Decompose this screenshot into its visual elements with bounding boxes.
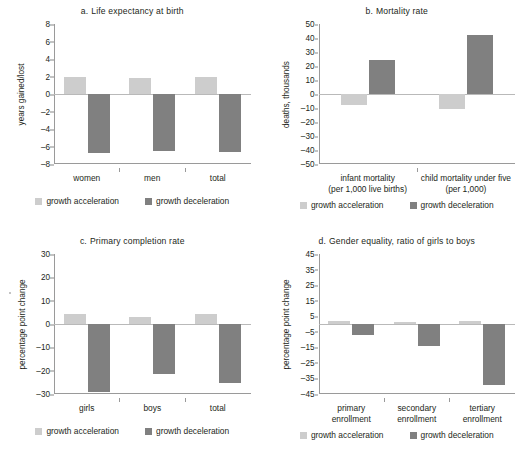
y-tick-label: –20 [36, 366, 50, 375]
y-tick-mark [315, 164, 319, 165]
y-tick-label: 20 [305, 62, 314, 71]
legend-swatch-acceleration-icon [35, 428, 42, 435]
y-tick-mark [50, 77, 54, 78]
bar-growth-acceleration [341, 94, 367, 105]
x-category-label-line: (per 1,000 live births) [328, 184, 407, 195]
y-tick-mark [50, 42, 54, 43]
bar-group [185, 254, 250, 394]
y-axis-ticks: 50403020100–10–20–30–40–50 [293, 24, 319, 164]
y-tick-mark [315, 394, 319, 395]
x-category-label: girls [79, 403, 94, 414]
bar-growth-deceleration [219, 324, 241, 383]
y-tick-mark [315, 150, 319, 151]
y-tick-label: –10 [36, 343, 50, 352]
bar-growth-deceleration [369, 60, 395, 94]
legend-label: growth acceleration [311, 430, 384, 440]
panel-d: d.Gender equality, ratio of girls to boy… [265, 230, 529, 460]
y-tick-label: –45 [301, 390, 315, 399]
y-tick-mark [315, 108, 319, 109]
y-axis-label: deaths, thousands [281, 24, 293, 164]
x-tick-mark [119, 168, 120, 172]
x-category-label-line: infant mortality [328, 173, 407, 184]
bars-layer [54, 24, 251, 164]
legend-swatch-acceleration-icon [35, 198, 42, 205]
legend-swatch-acceleration-icon [300, 202, 307, 209]
bar-growth-acceleration [64, 77, 86, 95]
x-category-label: secondaryenrollment [397, 403, 436, 425]
y-axis-label: years gained/lost [16, 24, 28, 164]
y-tick-label: 0 [45, 90, 50, 99]
y-axis-ticks: 86420–2–4–6–8 [28, 24, 54, 164]
y-tick-label: –50 [301, 160, 315, 169]
bar-group [119, 254, 184, 394]
y-tick-label: –4 [41, 125, 50, 134]
bar-group [319, 254, 384, 394]
scan-speck [9, 292, 11, 294]
y-tick-mark [50, 94, 54, 95]
x-category-label: total [210, 173, 226, 184]
bar-growth-acceleration [394, 322, 416, 324]
panel-c-legend: growth accelerationgrowth deceleration [0, 426, 265, 436]
bar-growth-acceleration [64, 314, 86, 324]
x-tick-mark [185, 168, 186, 172]
legend-label: growth deceleration [421, 200, 494, 210]
panel-letter: b. [365, 6, 373, 16]
y-axis-label: percentage point change [281, 254, 293, 394]
legend-label: growth acceleration [311, 200, 384, 210]
y-tick-mark [315, 66, 319, 67]
panel-a-title: a.Life expectancy at birth [0, 6, 265, 16]
y-tick-mark [315, 254, 319, 255]
bar-group [319, 24, 417, 164]
x-category-label-line: enrollment [397, 414, 436, 425]
y-tick-label: 5 [310, 312, 315, 321]
x-category-label-line: child mortality under five [421, 173, 511, 184]
legend-item-growth-acceleration: growth acceleration [35, 196, 119, 206]
plot-area [319, 24, 516, 164]
y-tick-label: –30 [301, 132, 315, 141]
x-category-label: child mortality under five(per 1,000) [421, 173, 511, 195]
four-panel-bar-chart-figure: a.Life expectancy at birthyears gained/l… [0, 0, 529, 460]
y-tick-mark [315, 80, 319, 81]
legend-swatch-deceleration-icon [145, 198, 152, 205]
bar-growth-acceleration [459, 321, 481, 324]
x-category-label: men [144, 173, 160, 184]
y-axis-ticks: 453525155–5–15–25–35–45 [293, 254, 319, 394]
y-tick-label: 50 [305, 20, 314, 29]
x-category-label-line: secondary [397, 403, 436, 414]
y-tick-mark [50, 347, 54, 348]
y-tick-label: –15 [301, 343, 315, 352]
y-tick-label: 2 [45, 72, 50, 81]
bar-growth-deceleration [88, 324, 110, 392]
y-tick-mark [315, 270, 319, 271]
y-tick-mark [50, 301, 54, 302]
legend-item-growth-acceleration: growth acceleration [300, 200, 384, 210]
y-tick-mark [315, 378, 319, 379]
panel-b: b.Mortality ratedeaths, thousands5040302… [265, 0, 529, 230]
y-tick-mark [50, 371, 54, 372]
x-tick-mark [449, 398, 450, 402]
y-tick-mark [50, 254, 54, 255]
y-axis-ticks: 3020100–10–20–30 [28, 254, 54, 394]
panel-c-plot: percentage point change3020100–10–20–30 [16, 254, 253, 394]
y-tick-mark [50, 59, 54, 60]
x-category-label: women [73, 173, 100, 184]
legend-label: growth acceleration [46, 426, 119, 436]
bars-layer [54, 254, 251, 394]
legend-item-growth-deceleration: growth deceleration [410, 200, 494, 210]
panel-title-text: Primary completion rate [90, 236, 185, 246]
y-tick-label: –25 [301, 358, 315, 367]
y-tick-label: –6 [41, 142, 50, 151]
plot-area [54, 254, 251, 394]
y-tick-label: 40 [305, 34, 314, 43]
y-tick-mark [315, 301, 319, 302]
y-tick-mark [315, 38, 319, 39]
y-tick-label: 8 [45, 20, 50, 29]
y-tick-mark [315, 347, 319, 348]
bar-group [54, 24, 119, 164]
y-tick-mark [315, 94, 319, 95]
y-tick-label: 4 [45, 55, 50, 64]
y-tick-mark [315, 136, 319, 137]
y-tick-label: –30 [36, 390, 50, 399]
panel-b-title: b.Mortality rate [265, 6, 529, 16]
x-tick-mark [417, 168, 418, 172]
